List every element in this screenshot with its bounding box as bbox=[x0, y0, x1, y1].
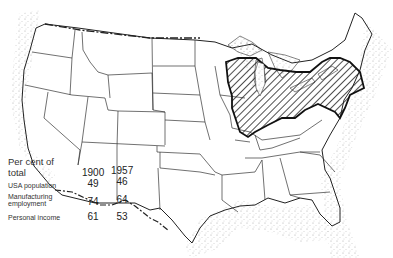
usa-outline bbox=[22, 13, 372, 243]
row-label: Personal income bbox=[8, 214, 60, 221]
column-header-1957: 1957 bbox=[111, 166, 133, 176]
manufacturing-belt-region bbox=[226, 58, 364, 137]
canada-border bbox=[45, 24, 200, 38]
value-1900: 74 bbox=[82, 197, 104, 207]
value-1957: 53 bbox=[111, 212, 133, 222]
value-1957: 46 bbox=[111, 177, 133, 187]
value-1900: 49 bbox=[82, 179, 104, 189]
row-label-line2: employment bbox=[8, 200, 46, 207]
value-1900: 61 bbox=[82, 212, 104, 222]
table-heading-line1: Per cent of bbox=[8, 157, 54, 167]
table-heading-line2: total bbox=[8, 168, 26, 178]
map-figure: Per cent of total 1900 1957 USA populati… bbox=[0, 0, 393, 258]
row-label-line1: Manufacturing bbox=[8, 193, 52, 200]
value-1957: 64 bbox=[111, 195, 133, 205]
column-header-1900: 1900 bbox=[82, 168, 104, 178]
row-label: USA population bbox=[8, 182, 56, 189]
coast-stipple bbox=[10, 10, 392, 258]
